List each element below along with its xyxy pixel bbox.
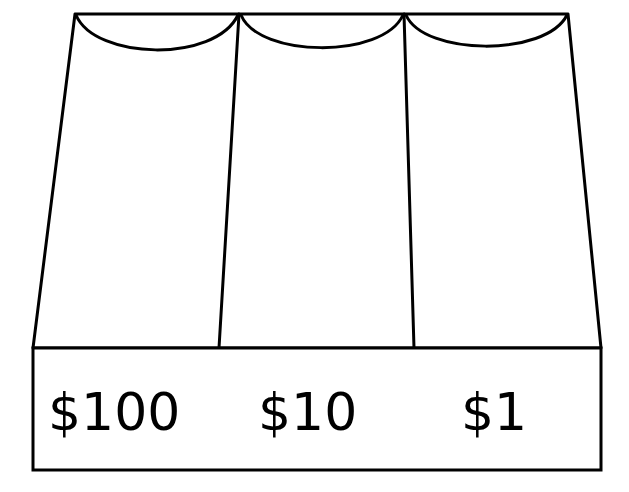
curtain-wall-group [33, 14, 601, 348]
value-sign-bar: $100 $10 $1 [33, 348, 601, 470]
curtain-stage-diagram: $100 $10 $1 [0, 0, 629, 492]
curtain-wall-outline [33, 14, 601, 348]
price-label-10: $10 [258, 382, 357, 442]
price-label-1: $1 [461, 382, 527, 442]
diagram-canvas: $100 $10 $1 [0, 0, 629, 492]
price-label-100: $100 [48, 382, 180, 442]
